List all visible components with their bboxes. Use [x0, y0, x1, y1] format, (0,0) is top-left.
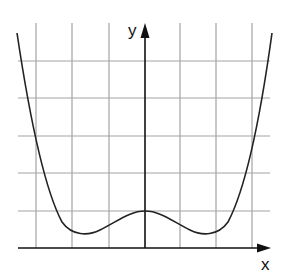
y-axis-arrow-icon: [141, 23, 150, 38]
axes: [18, 23, 271, 253]
x-axis-arrow-icon: [257, 244, 271, 253]
function-graph: y x: [0, 0, 292, 280]
y-axis-label: y: [128, 21, 137, 40]
x-axis-label: x: [261, 255, 270, 274]
